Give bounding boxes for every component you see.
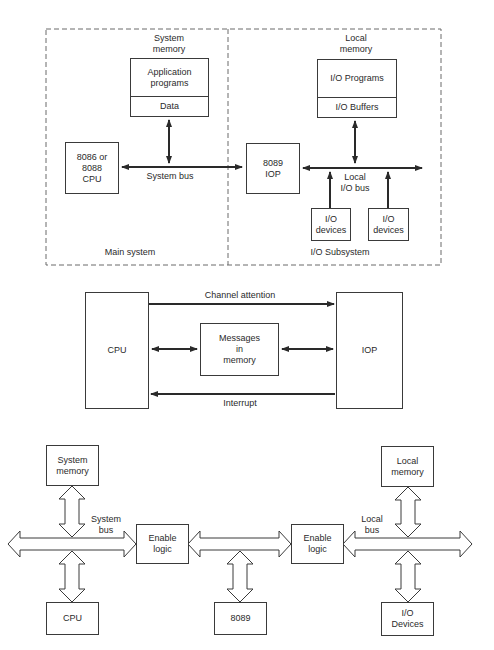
- application-programs-text: Application programs: [147, 67, 191, 89]
- chip-8089-vertical-arrow: [227, 551, 253, 602]
- chip-8089-box: 8089: [214, 602, 267, 635]
- io-devices-box-2: I/O devices: [368, 208, 409, 241]
- messages-in-memory-box: Messages in memory: [200, 323, 279, 376]
- io-programs-box: I/O Programs: [317, 59, 397, 98]
- application-programs-box: Application programs: [130, 58, 209, 97]
- bottom-cpu-text: CPU: [63, 613, 82, 624]
- enable-logic-1-text: Enable logic: [148, 533, 176, 555]
- localmem-vertical-arrow: [395, 487, 421, 537]
- io-devices-vertical-arrow: [395, 551, 421, 602]
- io-devices-box-1: I/O devices: [311, 208, 351, 241]
- io-buffers-box: I/O Buffers: [317, 97, 397, 118]
- bottom-system-bus-label: System bus: [86, 514, 126, 536]
- bottom-local-memory-box: Local memory: [381, 446, 434, 487]
- io-devices-2-text: I/O devices: [373, 214, 404, 236]
- iop-8089-box: 8089 IOP: [246, 143, 300, 194]
- data-box: Data: [130, 96, 209, 117]
- bottom-cpu-box: CPU: [46, 602, 99, 635]
- iop-8089-text: 8089 IOP: [263, 158, 283, 180]
- local-memory-label: Local memory: [316, 33, 396, 55]
- bottom-io-devices-text: I/O Devices: [391, 608, 423, 630]
- sysmem-vertical-arrow: [59, 486, 85, 537]
- interrupt-label: Interrupt: [200, 398, 280, 409]
- bottom-local-memory-text: Local memory: [391, 456, 424, 478]
- io-devices-1-text: I/O devices: [316, 214, 347, 236]
- bottom-io-devices-box: I/O Devices: [381, 602, 434, 636]
- system-bus-label: System bus: [135, 171, 205, 182]
- cpu-8086-box: 8086 or 8088 CPU: [65, 142, 119, 194]
- enable-logic-2-text: Enable logic: [303, 533, 331, 555]
- data-text: Data: [160, 101, 179, 112]
- middle-iop-text: IOP: [362, 345, 378, 356]
- cpu-vertical-arrow: [59, 551, 85, 602]
- io-buffers-text: I/O Buffers: [336, 102, 379, 113]
- bottom-local-bus-label: Local bus: [352, 514, 392, 536]
- io-subsystem-label: I/O Subsystem: [300, 247, 380, 258]
- middle-iop-box: IOP: [336, 292, 403, 409]
- local-io-bus-label: Local I/O bus: [330, 172, 380, 194]
- enable-logic-2-box: Enable logic: [291, 524, 344, 564]
- channel-attention-label: Channel attention: [190, 290, 290, 301]
- system-memory-label: System memory: [130, 33, 208, 55]
- enable-logic-1-box: Enable logic: [136, 524, 189, 564]
- messages-text: Messages in memory: [219, 333, 260, 366]
- bottom-system-memory-box: System memory: [46, 445, 99, 486]
- middle-cpu-text: CPU: [107, 345, 126, 356]
- middle-cpu-box: CPU: [85, 292, 149, 409]
- cpu-8086-text: 8086 or 8088 CPU: [77, 152, 108, 185]
- io-programs-text: I/O Programs: [330, 73, 384, 84]
- bottom-system-memory-text: System memory: [56, 455, 89, 477]
- chip-8089-text: 8089: [230, 613, 250, 624]
- main-system-label: Main system: [95, 247, 165, 258]
